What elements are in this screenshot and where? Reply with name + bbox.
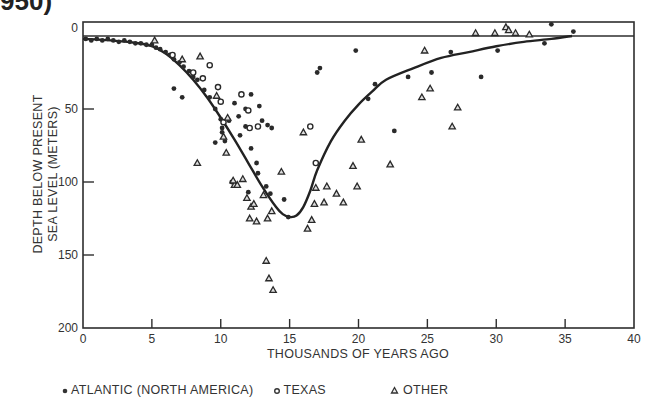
- legend-label: OTHER: [403, 383, 448, 397]
- svg-text:0: 0: [80, 332, 87, 346]
- svg-text:5: 5: [149, 332, 156, 346]
- axis-ticks: 0510152025303540050100150200: [58, 21, 641, 346]
- svg-text:150: 150: [58, 248, 78, 262]
- svg-text:15: 15: [283, 332, 297, 346]
- svg-text:40: 40: [627, 332, 641, 346]
- svg-text:10: 10: [214, 332, 228, 346]
- legend-label: TEXAS: [283, 383, 326, 397]
- svg-text:100: 100: [58, 175, 78, 189]
- y-axis-title-line1: DEPTH BELOW PRESENT: [31, 94, 45, 253]
- sea-level-chart: 0510152025303540050100150200 THOUSANDS O…: [0, 0, 654, 406]
- legend-item-other: OTHER: [390, 383, 448, 397]
- data-points: [83, 22, 575, 293]
- x-axis-title: THOUSANDS OF YEARS AGO: [267, 347, 449, 361]
- legend-item-texas: TEXAS: [273, 383, 326, 397]
- open-circle-icon: [273, 385, 281, 395]
- legend: ATLANTIC (NORTH AMERICA) TEXAS OTHER: [62, 383, 448, 397]
- svg-text:50: 50: [65, 102, 79, 116]
- svg-text:30: 30: [490, 332, 504, 346]
- y-axis-title-line2: SEA LEVEL (METERS): [46, 106, 60, 242]
- svg-text:0: 0: [71, 21, 78, 35]
- plot-frame: [83, 22, 634, 328]
- legend-item-atlantic: ATLANTIC (NORTH AMERICA): [62, 383, 253, 397]
- trend-curve: [83, 36, 572, 217]
- svg-text:35: 35: [558, 332, 572, 346]
- svg-text:200: 200: [58, 321, 78, 335]
- open-triangle-icon: [390, 385, 399, 395]
- legend-label: ATLANTIC (NORTH AMERICA): [71, 383, 253, 397]
- svg-text:20: 20: [352, 332, 366, 346]
- filled-circle-icon: [62, 385, 69, 395]
- svg-text:25: 25: [421, 332, 435, 346]
